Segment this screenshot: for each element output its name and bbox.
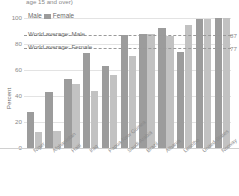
bar-female-albania [166,36,174,148]
bar-female-papua-new-guinea [110,75,118,148]
y-tick-20: 20 [0,119,22,125]
bar-female-lesotho [185,25,193,149]
legend: Male Female [28,12,74,20]
bar-group-niger [25,18,44,148]
bar-male-afghanistan [45,92,53,148]
reference-value-world-average-female: 77 [230,45,237,52]
reference-label-world-average-female: World average: Female [28,43,94,50]
bar-male-lesotho [177,52,185,148]
x-axis-labels: Niger Afghanistan Haiti Iraq Papua New G… [24,149,231,195]
reference-value-world-average-male: 87 [230,32,237,39]
legend-label-female: Female [53,12,74,20]
bar-female-haiti [72,84,80,148]
bar-male-norway [215,18,223,148]
bar-group-united-states [194,18,213,148]
bar-female-iraq [91,91,99,148]
y-tick-60: 60 [0,67,22,73]
bar-group-papua-new-guinea [100,18,119,148]
y-axis-label: Percent [5,79,12,119]
legend-label-male: Male [28,12,42,20]
bar-group-albania [157,18,176,148]
literacy-rate-chart: age 15 and over) 100 80 60 40 20 0 Perce… [0,0,239,196]
bar-groups [24,18,231,148]
y-tick-80: 80 [0,41,22,47]
legend-swatch-male [44,14,51,19]
bar-male-papua-new-guinea [102,66,110,148]
reference-label-world-average-male: World average: Male [28,30,87,37]
bar-group-lesotho [175,18,194,148]
bar-group-iraq [81,18,100,148]
bar-group-norway [213,18,232,148]
bar-female-united-states [204,19,212,148]
bar-male-albania [158,28,166,148]
bar-group-afghanistan [44,18,63,148]
chart-title: age 15 and over) [26,0,226,6]
y-tick-100: 100 [0,15,22,21]
bar-male-united-states [196,19,204,148]
bar-male-iraq [83,53,91,148]
bar-male-niger [27,112,35,148]
bar-group-haiti [63,18,82,148]
